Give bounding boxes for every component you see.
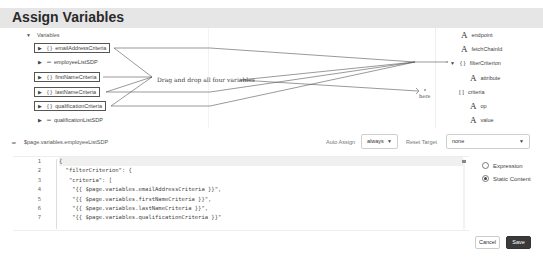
object-icon: { }	[47, 89, 52, 95]
code-line[interactable]: "criteria": [	[59, 176, 463, 185]
target-item-filterCriterion[interactable]: ▼{ }filterCriterion	[450, 58, 501, 68]
cancel-button[interactable]: Cancel	[475, 236, 500, 249]
source-item-employeeListSDP[interactable]: ▶═employeeListSDP	[38, 57, 98, 67]
line-number-gutter: 1 2 3 4 5 6 7	[13, 157, 43, 232]
target-item-endpoint[interactable]: Aendpoint	[461, 30, 493, 40]
sdp-icon: ═	[47, 117, 51, 123]
expand-icon[interactable]: ▶	[38, 59, 42, 65]
string-type-icon: A	[461, 44, 468, 54]
string-type-icon: A	[470, 115, 477, 125]
string-type-icon: A	[461, 30, 468, 40]
auto-assign-select[interactable]: always ▼	[361, 134, 398, 149]
editor-scrollbar[interactable]	[463, 159, 465, 229]
string-type-icon: A	[470, 73, 477, 83]
reset-target-label: Reset Target	[406, 139, 437, 145]
caret-down-icon[interactable]: ▼	[450, 60, 455, 66]
auto-assign-label: Auto Assign	[326, 139, 355, 145]
object-icon: { }	[460, 60, 466, 66]
radio-static-content[interactable]: Static Content	[482, 173, 531, 185]
caret-down-icon[interactable]: ▼	[26, 32, 31, 38]
column-divider	[435, 28, 436, 128]
code-editor[interactable]: 1 2 3 4 5 6 7 { "filterCriterion": { "cr…	[13, 156, 469, 231]
radio-checked-icon[interactable]	[482, 175, 489, 182]
code-line[interactable]: {	[59, 157, 463, 166]
radio-unchecked-icon[interactable]	[482, 162, 489, 169]
sdp-icon: ═	[12, 139, 16, 146]
target-item-fetchChainId[interactable]: AfetchChainId	[461, 44, 502, 54]
expand-icon[interactable]: ▶	[38, 103, 42, 109]
object-icon: { }	[47, 74, 52, 80]
drop-here-annotation: here	[419, 93, 431, 99]
target-item-value[interactable]: Avalue	[470, 115, 494, 125]
source-item-qualificationListSDP[interactable]: ▶═qualificationListSDP	[38, 115, 103, 125]
source-item-qualificationCriteria[interactable]: ▶{ }qualificationCriteria	[34, 101, 106, 111]
source-item-emailAddressCriteria[interactable]: ▶{ }emailAddressCriteria	[34, 43, 110, 53]
editor-scroll-thumb[interactable]	[462, 160, 466, 163]
source-item-firstNameCriteria[interactable]: ▶{ }firstNameCriteria	[34, 72, 100, 82]
expand-icon[interactable]: ▶	[38, 117, 42, 123]
expand-icon[interactable]: ▶	[38, 45, 42, 51]
target-item-op[interactable]: Aop	[470, 101, 487, 111]
code-line[interactable]: "filterCriterion": {	[59, 166, 463, 175]
drag-drop-annotation: Drag and drop all four variables	[157, 76, 255, 83]
code-content[interactable]: { "filterCriterion": { "criteria": [ "{{…	[59, 157, 463, 223]
object-icon: { }	[47, 103, 52, 109]
target-variable-path: $page.variables.employeeListSDP	[24, 139, 108, 145]
target-item-criteria[interactable]: [ ]criteria	[459, 87, 485, 97]
sdp-icon: ═	[47, 59, 51, 65]
target-item-attribute[interactable]: Aattribute	[470, 73, 500, 83]
content-mode-radio-group: Expression Static Content	[482, 160, 531, 186]
variables-root-label: Variables	[37, 32, 60, 38]
object-icon: { }	[47, 45, 52, 51]
reset-target-select[interactable]: none ▼	[446, 134, 530, 149]
source-item-lastNameCriteria[interactable]: ▶{ }lastNameCriteria	[34, 87, 100, 97]
expand-icon[interactable]: ▶	[38, 74, 42, 80]
code-line[interactable]: "{{ $page.variables.qualificationCriteri…	[59, 213, 463, 222]
radio-expression[interactable]: Expression	[482, 160, 531, 172]
code-line[interactable]: "{{ $page.variables.firstNameCriteria }}…	[59, 195, 463, 204]
expand-icon[interactable]: ▶	[38, 89, 42, 95]
dropdown-arrow-icon: ▼	[387, 135, 392, 148]
save-button[interactable]: Save	[506, 236, 531, 249]
variables-tree-root[interactable]: ▼Variables	[26, 32, 59, 38]
gutter-divider	[56, 159, 57, 229]
code-line[interactable]: "{{ $page.variables.emailAddressCriteria…	[59, 185, 463, 194]
assignment-toolbar: ═ $page.variables.employeeListSDP Auto A…	[0, 130, 543, 156]
dialog-title: Assign Variables	[12, 9, 124, 25]
array-icon: [ ]	[459, 89, 464, 95]
code-line[interactable]: "{{ $page.variables.lastNameCriteria }}"…	[59, 204, 463, 213]
dropdown-arrow-icon: ▼	[519, 135, 524, 148]
string-type-icon: A	[470, 101, 477, 111]
